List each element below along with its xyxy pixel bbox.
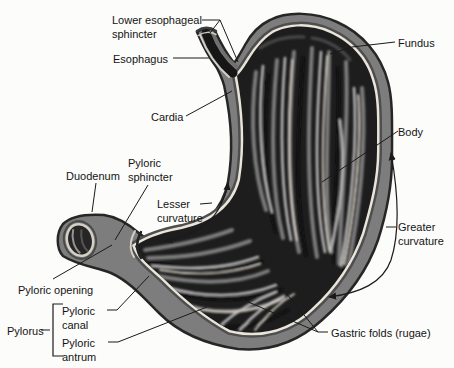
label-lesser-curvature: Lesser curvature xyxy=(157,197,203,225)
label-pylorus: Pylorus xyxy=(7,324,44,338)
label-pyloric-opening: Pyloric opening xyxy=(18,283,93,297)
label-cardia: Cardia xyxy=(151,110,183,124)
label-esophagus: Esophagus xyxy=(113,52,168,66)
label-pyloric-canal: Pyloric canal xyxy=(62,304,95,332)
label-lower-esophageal-sphincter: Lower esophageal sphincter xyxy=(112,13,202,41)
label-greater-curvature: Greater curvature xyxy=(398,220,444,248)
label-fundus: Fundus xyxy=(398,36,435,50)
label-duodenum: Duodenum xyxy=(66,169,120,183)
stomach-anatomy-figure: Lower esophageal sphincter Esophagus Car… xyxy=(0,0,454,368)
leader-duodenum xyxy=(92,183,96,212)
label-pyloric-sphincter: Pyloric sphincter xyxy=(128,156,173,184)
leader-cardia xyxy=(186,91,232,116)
label-pyloric-antrum: Pyloric antrum xyxy=(62,336,96,364)
label-gastric-folds: Gastric folds (rugae) xyxy=(331,326,431,340)
label-body: Body xyxy=(398,125,423,139)
